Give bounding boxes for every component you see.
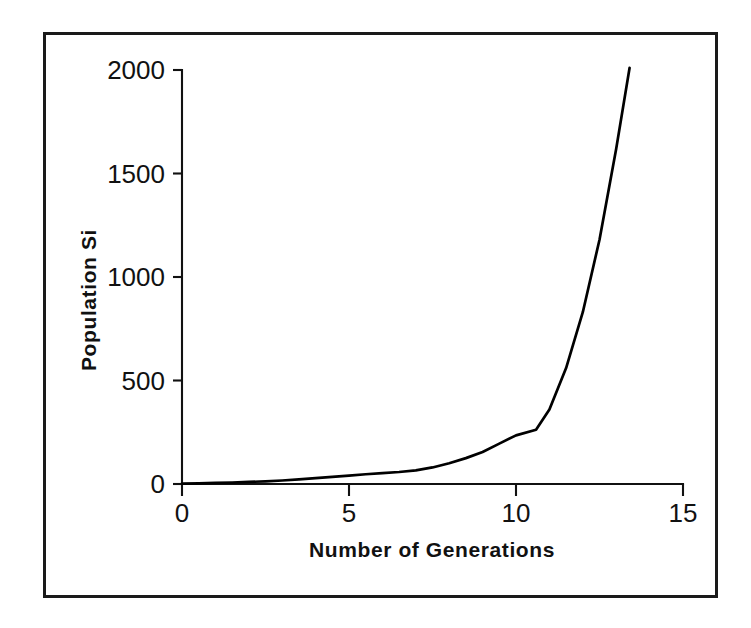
y-tick-label-500: 500: [122, 366, 165, 396]
y-tick-labels: 2000 1500 1000 500 0: [107, 55, 165, 499]
x-tick-label-15: 15: [669, 498, 698, 528]
x-tick-label-0: 0: [175, 498, 189, 528]
y-tick-label-1000: 1000: [107, 262, 165, 292]
x-axis-title: Number of Generations: [309, 538, 555, 561]
y-axis-title: Population Si: [77, 229, 100, 371]
x-tick-marks: [182, 484, 683, 496]
y-tick-label-0: 0: [151, 469, 165, 499]
x-tick-label-10: 10: [502, 498, 531, 528]
population-series-line: [182, 68, 630, 484]
axes-group: [182, 70, 683, 484]
y-tick-label-2000: 2000: [107, 55, 165, 85]
figure-page: 2000 1500 1000 500 0 0 5 10 15 Populatio…: [0, 0, 751, 628]
y-tick-marks: [173, 70, 182, 484]
x-tick-label-5: 5: [342, 498, 356, 528]
population-growth-chart: 2000 1500 1000 500 0 0 5 10 15 Populatio…: [0, 0, 751, 628]
x-tick-labels: 0 5 10 15: [175, 498, 698, 528]
y-tick-label-1500: 1500: [107, 159, 165, 189]
